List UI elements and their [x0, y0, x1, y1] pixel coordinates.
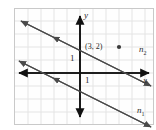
line-label-n1: n1: [137, 106, 145, 117]
y-unit-tick-label: 1: [70, 54, 75, 63]
graph-svg: [15, 9, 153, 124]
line-label-n2: n2: [139, 45, 147, 56]
marked-point: [117, 45, 121, 49]
point-label: (3, 2): [85, 43, 102, 51]
x-axis-label: x: [143, 76, 147, 85]
x-unit-tick-label: 1: [85, 76, 90, 85]
graph-figure: y x 1 1 (3, 2) n2 n1: [0, 0, 156, 130]
y-axis-label: y: [84, 11, 88, 20]
line-label-n2-sub: 2: [144, 50, 147, 56]
line-label-n1-sub: 1: [142, 111, 145, 117]
plot-area: y x 1 1 (3, 2) n2 n1: [14, 8, 154, 125]
line-n1: [19, 61, 151, 127]
